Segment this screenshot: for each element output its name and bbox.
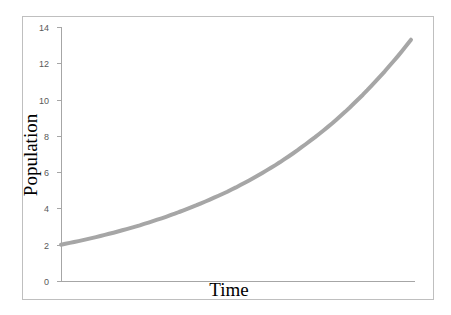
y-tick-label: 10 <box>39 96 49 106</box>
y-tick-label: 2 <box>44 241 49 251</box>
y-tick-label: 0 <box>44 277 49 287</box>
y-tick-label: 12 <box>39 59 49 69</box>
chart: 02468101214 Time Population <box>0 0 451 315</box>
y-tick-label: 4 <box>44 204 49 214</box>
chart-frame <box>23 17 434 300</box>
y-tick-label: 8 <box>44 132 49 142</box>
y-axis-title: Population <box>20 113 41 196</box>
y-tick-label: 6 <box>44 168 49 178</box>
x-axis-title: Time <box>209 279 248 300</box>
y-tick-label: 14 <box>39 23 49 33</box>
